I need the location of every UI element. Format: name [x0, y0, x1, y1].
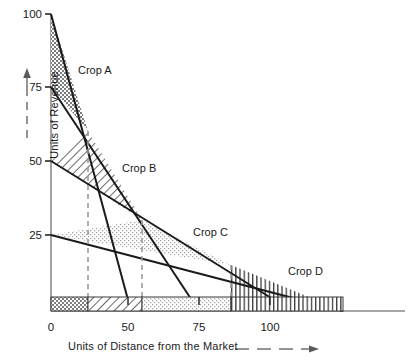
chart-canvas: 100 75 50 25 0 50 75 100 — [0, 0, 417, 363]
annotation-crop-d: Crop D — [288, 265, 323, 277]
band-zone-crop-c — [142, 297, 231, 311]
land-use-band — [51, 297, 343, 311]
x-tick-label-75: 75 — [193, 321, 206, 333]
y-tick-label-100: 100 — [23, 8, 42, 20]
x-tick-label-50: 50 — [122, 321, 135, 333]
y-tick-label-50: 50 — [29, 155, 42, 167]
zone-boundary-lines — [88, 131, 231, 311]
annotation-crop-c: Crop C — [193, 226, 228, 238]
y-tick-label-0: 0 — [48, 321, 54, 333]
band-zone-crop-b — [88, 297, 142, 311]
y-axis-title: Units of Revenue — [48, 55, 68, 175]
y-tick-label-75: 75 — [29, 81, 42, 93]
x-tick-label-100: 100 — [260, 321, 279, 333]
line-crop-b — [51, 87, 199, 311]
x-axis-title-text: Units of Distance from the Market — [68, 340, 238, 352]
x-axis-arrow-icon — [235, 345, 319, 352]
y-tick-label-25: 25 — [29, 229, 42, 241]
y-axis-title-text: Units of Revenue — [48, 71, 60, 159]
y-axis-arrow-icon — [23, 68, 31, 138]
annotation-crop-a: Crop A — [78, 64, 112, 76]
annotation-crop-b: Crop B — [122, 162, 156, 174]
band-zone-crop-d — [231, 297, 343, 311]
band-zone-crop-a — [51, 297, 88, 311]
x-axis-title: Units of Distance from the Market — [68, 340, 238, 352]
